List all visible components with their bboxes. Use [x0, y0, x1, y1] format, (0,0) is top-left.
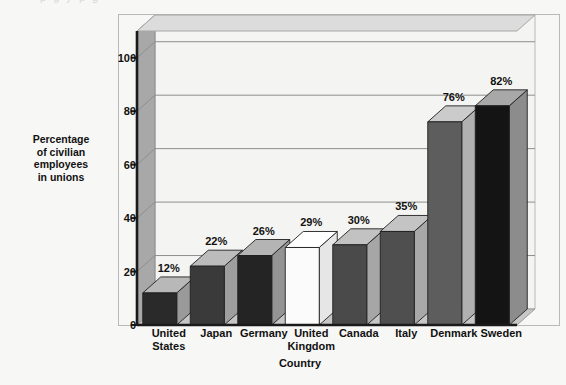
- bar-value-label-united-kingdom: 29%: [289, 217, 333, 228]
- bar-value-label-united-states: 12%: [147, 263, 191, 274]
- x-category-label-line: Sweden: [469, 327, 533, 340]
- x-category-label-line: States: [137, 340, 201, 353]
- x-category-label-line: Kingdom: [279, 340, 343, 353]
- x-axis-title: Country: [0, 357, 566, 369]
- x-category-label-sweden: Sweden: [469, 327, 533, 340]
- bar-value-label-sweden: 82%: [479, 76, 523, 87]
- bar-value-label-italy: 35%: [384, 201, 428, 212]
- bar-value-label-germany: 26%: [242, 226, 286, 237]
- bar-value-label-japan: 22%: [194, 236, 238, 247]
- bar-value-label-canada: 30%: [337, 215, 381, 226]
- bar-value-label-denmark: 76%: [432, 92, 476, 103]
